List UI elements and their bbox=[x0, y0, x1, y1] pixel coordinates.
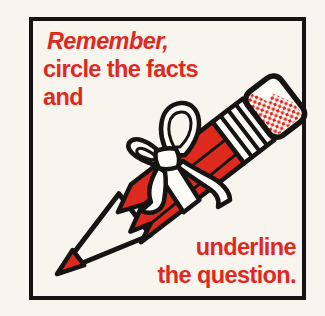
instruction-question: the question. bbox=[158, 261, 296, 289]
instruction-text-block: underline the question. bbox=[158, 233, 296, 289]
reminder-card: Remember, circle the facts and bbox=[0, 0, 325, 316]
instruction-underline: underline bbox=[158, 233, 296, 261]
bow-knot bbox=[155, 148, 179, 169]
